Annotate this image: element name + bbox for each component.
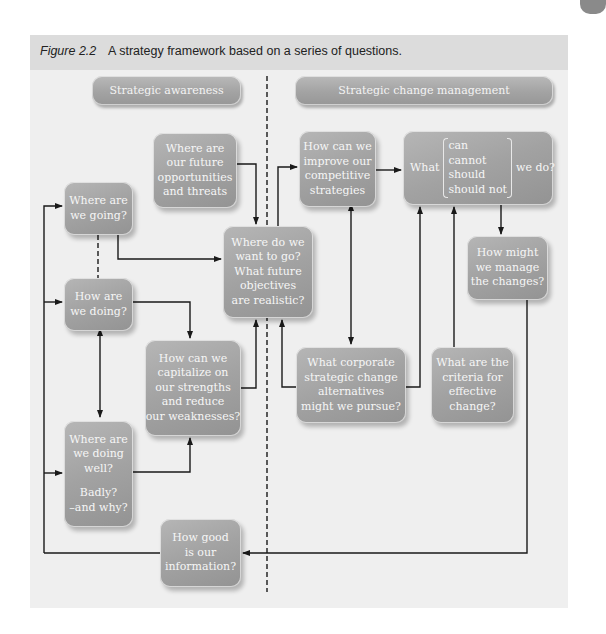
box-what-can-we-do: What can cannot should should not we do?: [403, 131, 553, 205]
box-line: objectives: [240, 279, 296, 294]
box-line: How are: [75, 290, 122, 305]
box-line: Where are: [69, 433, 128, 448]
box-line: strategic change: [304, 371, 397, 386]
option-should-not: should not: [448, 183, 507, 198]
box-line: criteria for: [442, 371, 503, 386]
box-line: the changes?: [471, 275, 545, 290]
box-line: What corporate: [307, 356, 394, 371]
box-line: want to go?: [235, 250, 300, 265]
box-improve-competitive-strategies: How can we improve our competitive strat…: [299, 131, 376, 207]
box-line: is our: [185, 546, 217, 561]
box-line: opportunities: [158, 171, 233, 186]
options-brace-list: can cannot should should not: [443, 138, 512, 198]
box-corporate-change-alternatives: What corporate strategic change alternat…: [296, 347, 406, 423]
box-how-manage-changes: How might we manage the changes?: [467, 236, 548, 300]
box-line: Badly?: [80, 486, 117, 501]
box-line: we going?: [70, 209, 127, 224]
box-line: we manage: [476, 261, 540, 276]
box-line: our future: [167, 156, 224, 171]
box-line: How can we: [303, 140, 371, 155]
box-line: change?: [449, 400, 495, 415]
box-line: we doing: [73, 447, 124, 462]
box-line: What are the: [436, 356, 509, 371]
box-line: improve our: [303, 155, 371, 170]
box-line: we doing?: [70, 305, 127, 320]
box-line: How might: [477, 246, 539, 261]
box-line: our weaknesses?: [146, 410, 241, 425]
box-line: effective: [449, 385, 497, 400]
box-line: How good: [172, 531, 228, 546]
box-criteria-effective-change: What are the criteria for effective chan…: [431, 347, 514, 423]
box-line: might we pursue?: [301, 400, 401, 415]
box-line: information?: [165, 560, 236, 575]
what-tail-text: we do?: [516, 161, 555, 176]
box-line: are realistic?: [232, 294, 305, 309]
what-lead-word: What: [410, 161, 439, 176]
box-line: well?: [84, 462, 113, 477]
box-line: –and why?: [69, 501, 127, 516]
box-where-are-we-going: Where are we going?: [64, 182, 133, 235]
box-line: How can we: [159, 352, 227, 367]
box-line: Where are: [69, 194, 128, 209]
box-line: Where are: [166, 142, 225, 157]
box-line: capitalize on: [158, 366, 229, 381]
box-where-doing-well: Where are we doing well? Badly? –and why…: [64, 421, 133, 527]
box-line: Where do we: [231, 236, 304, 251]
box-line: and reduce: [162, 395, 225, 410]
box-line: What future: [234, 265, 301, 280]
option-cannot: cannot: [448, 154, 507, 169]
option-should: should: [448, 168, 507, 183]
box-where-do-we-want-to-go: Where do we want to go? What future obje…: [223, 226, 313, 318]
box-how-are-we-doing: How are we doing?: [64, 278, 133, 331]
option-can: can: [448, 139, 507, 154]
box-how-good-information: How good is our information?: [160, 519, 241, 587]
box-line: our strengths: [155, 381, 231, 396]
box-line: strategies: [310, 184, 366, 199]
box-line: alternatives: [318, 385, 384, 400]
box-future-opportunities: Where are our future opportunities and t…: [153, 133, 237, 208]
box-line: and threats: [163, 185, 227, 200]
box-capitalize-strengths: How can we capitalize on our strengths a…: [145, 340, 241, 436]
box-line: competitive: [305, 169, 370, 184]
